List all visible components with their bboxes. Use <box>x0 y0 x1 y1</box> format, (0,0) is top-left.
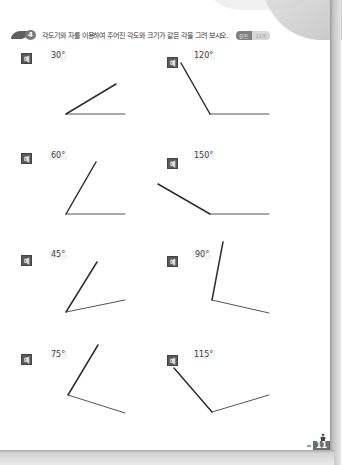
angle-75-drawing <box>68 345 125 413</box>
page-number-dot <box>307 445 311 447</box>
angle-150-drawing <box>158 184 269 214</box>
angle-120-drawing <box>181 63 269 114</box>
angle-60-drawing <box>66 162 125 214</box>
angle-30-drawing <box>66 84 125 114</box>
angle-115-drawing <box>174 368 269 412</box>
page-edge-bottom <box>0 450 334 465</box>
angle-45-drawing <box>66 262 125 312</box>
angle-90-drawing <box>212 242 269 313</box>
page-edge-right <box>330 0 341 465</box>
